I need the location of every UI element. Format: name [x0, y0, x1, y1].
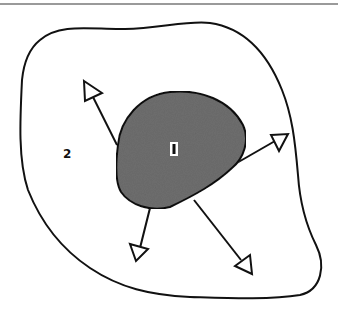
region-2-label: 2 [63, 147, 71, 161]
region-1-label [170, 142, 178, 156]
diagram-canvas: 2 [0, 0, 338, 317]
